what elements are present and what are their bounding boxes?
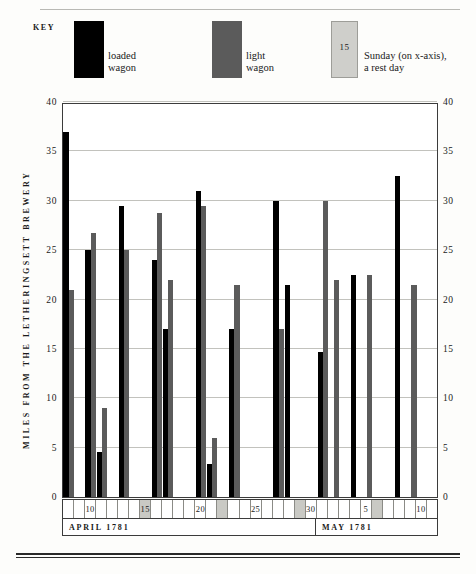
x-axis-day-cell-may-4	[350, 500, 361, 518]
x-axis-day-cell-april-30: 30	[306, 500, 317, 518]
legend-label-loaded-wagon: loaded wagon	[108, 50, 136, 73]
x-axis-day-cell-april-8	[63, 500, 74, 518]
x-axis-day-cell-april-22	[217, 500, 228, 518]
y-tick-right-35: 35	[443, 146, 469, 156]
x-axis-day-cell-april-26	[262, 500, 273, 518]
y-tick-left-5: 5	[31, 443, 57, 453]
bar-light-april-21	[212, 438, 217, 497]
x-axis-day-cell-april-11	[96, 500, 107, 518]
x-axis-month-cells: APRIL 1781MAY 1781	[62, 519, 438, 536]
y-tick-left-20: 20	[31, 295, 57, 305]
x-axis-day-cell-april-19	[184, 500, 195, 518]
y-tick-right-20: 20	[443, 295, 469, 305]
bar-light-april-17	[168, 280, 173, 497]
y-tick-right-30: 30	[443, 196, 469, 206]
bar-light-april-11	[102, 408, 107, 497]
x-axis-day-cell-may-2	[328, 500, 339, 518]
gridline-35	[63, 150, 437, 151]
y-tick-right-40: 40	[443, 97, 469, 107]
legend-label-light-wagon-line1: light	[246, 50, 274, 62]
y-tick-left-35: 35	[31, 146, 57, 156]
bottom-divider-rule-thick	[16, 553, 460, 555]
bar-light-april-23	[234, 285, 239, 497]
x-axis-day-cell-april-23	[228, 500, 239, 518]
x-axis-day-cell-may-11	[427, 500, 437, 518]
bar-loaded-may-4	[351, 275, 356, 497]
chart-legend: KEY loaded wagon light wagon 15 Sunday (…	[0, 18, 476, 90]
x-axis-day-cells: 1015202530510	[62, 499, 438, 519]
x-axis-day-cell-april-17	[162, 500, 173, 518]
legend-swatch-sunday: 15	[331, 21, 358, 78]
x-axis-day-cell-april-14	[129, 500, 140, 518]
legend-title: KEY	[33, 23, 55, 32]
plot-area-wrapper	[62, 103, 438, 498]
x-axis-day-cell-may-9	[405, 500, 416, 518]
bar-light-may-1	[323, 201, 328, 497]
legend-label-sunday: Sunday (on x-axis), a rest day	[364, 50, 447, 73]
bar-light-may-5	[367, 275, 372, 497]
bar-loaded-april-28	[285, 285, 290, 497]
x-axis-day-cell-april-28	[284, 500, 295, 518]
y-tick-left-40: 40	[31, 97, 57, 107]
bar-light-april-16	[157, 213, 162, 497]
bar-light-may-2	[334, 280, 339, 497]
y-tick-left-0: 0	[31, 492, 57, 502]
x-axis-day-cell-may-6	[372, 500, 383, 518]
y-tick-right-10: 10	[443, 393, 469, 403]
x-axis-day-cell-april-16	[151, 500, 162, 518]
x-axis-day-cell-may-3	[339, 500, 350, 518]
plot-area	[62, 103, 438, 498]
x-axis-day-cell-april-13	[118, 500, 129, 518]
y-tick-right-0: 0	[443, 492, 469, 502]
legend-label-loaded-wagon-line2: wagon	[108, 62, 136, 74]
gridline-30	[63, 200, 437, 201]
x-axis-day-cell-april-10: 10	[85, 500, 96, 518]
bottom-divider-rule-thin	[16, 557, 460, 558]
legend-label-sunday-line2: a rest day	[364, 62, 447, 74]
legend-swatch-sunday-number: 15	[332, 42, 357, 52]
legend-swatch-loaded-wagon	[74, 21, 104, 78]
y-tick-right-5: 5	[443, 443, 469, 453]
x-axis-month-cell-april: APRIL 1781	[63, 519, 316, 535]
x-axis-day-cell-may-7	[383, 500, 394, 518]
bar-light-may-9	[411, 285, 416, 497]
x-axis-day-cell-april-27	[273, 500, 284, 518]
y-tick-left-25: 25	[31, 245, 57, 255]
x-axis-day-cell-april-24	[240, 500, 251, 518]
gridline-40	[63, 101, 437, 102]
legend-swatch-light-wagon	[212, 21, 242, 78]
x-axis-day-cell-april-18	[173, 500, 184, 518]
y-tick-right-15: 15	[443, 344, 469, 354]
y-tick-right-25: 25	[443, 245, 469, 255]
bar-loaded-may-8	[395, 176, 400, 497]
bar-light-april-13	[124, 250, 129, 497]
y-tick-left-10: 10	[31, 393, 57, 403]
x-axis-day-cell-april-12	[107, 500, 118, 518]
legend-label-light-wagon: light wagon	[246, 50, 274, 73]
legend-label-light-wagon-line2: wagon	[246, 62, 274, 74]
x-axis-day-cell-may-5: 5	[361, 500, 372, 518]
x-axis-day-cell-april-25: 25	[251, 500, 262, 518]
legend-label-sunday-line1: Sunday (on x-axis),	[364, 50, 447, 62]
x-axis-day-cell-may-10: 10	[416, 500, 427, 518]
x-axis-day-cell-april-9	[74, 500, 85, 518]
y-tick-left-15: 15	[31, 344, 57, 354]
x-axis-day-cell-april-15: 15	[140, 500, 151, 518]
bar-light-april-20	[201, 206, 206, 497]
x-axis-day-cell-april-29	[295, 500, 306, 518]
x-axis-day-cell-may-8	[394, 500, 405, 518]
bar-light-april-27	[279, 329, 284, 497]
x-axis-month-cell-may: MAY 1781	[316, 519, 437, 535]
x-axis-day-cell-may-1	[317, 500, 328, 518]
legend-label-loaded-wagon-line1: loaded	[108, 50, 136, 62]
bar-light-april-8	[69, 290, 74, 497]
y-tick-left-30: 30	[31, 196, 57, 206]
bar-light-april-10	[91, 233, 96, 497]
x-axis-day-cell-april-20: 20	[195, 500, 206, 518]
x-axis-day-cell-april-21	[206, 500, 217, 518]
top-divider-rule	[40, 9, 460, 10]
